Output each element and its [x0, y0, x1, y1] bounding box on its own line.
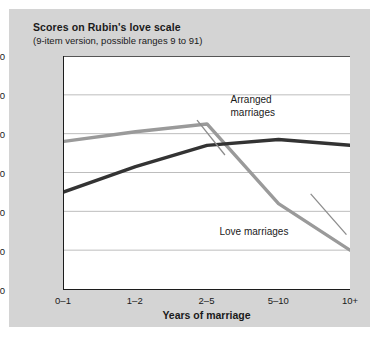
plot-frame	[63, 56, 350, 290]
chart-svg	[64, 56, 350, 289]
y-tick-60: 60	[0, 168, 5, 179]
chart-title: Scores on Rubin's love scale	[33, 21, 181, 33]
y-tick-70: 70	[0, 129, 5, 140]
y-tick-50: 50	[0, 207, 5, 218]
series-label-arranged-line1: Arranged	[231, 94, 275, 107]
x-tick-1: 1–2	[127, 295, 143, 306]
series-lines	[64, 124, 350, 250]
y-tick-30: 30	[0, 285, 5, 296]
series-label-arranged: Arranged marriages	[231, 94, 275, 119]
x-tick-2: 2–5	[199, 295, 215, 306]
x-tick-3: 5–10	[268, 295, 289, 306]
x-tick-0: 0–1	[55, 295, 71, 306]
figure-panel: Scores on Rubin's love scale (9-item ver…	[9, 9, 370, 327]
series-label-love: Love marriages	[220, 226, 289, 239]
series-line-love	[64, 139, 350, 191]
x-tick-4: 10+	[342, 295, 358, 306]
y-tick-90: 90	[0, 51, 5, 62]
x-axis-label: Years of marriage	[63, 309, 350, 321]
series-label-love-line1: Love marriages	[220, 226, 289, 239]
plot-area: 30405060708090 0–11–22–55–1010+	[63, 56, 350, 290]
y-tick-80: 80	[0, 90, 5, 101]
series-label-arranged-line2: marriages	[231, 107, 275, 120]
y-tick-40: 40	[0, 246, 5, 257]
chart-subtitle: (9-item version, possible ranges 9 to 91…	[33, 35, 203, 46]
